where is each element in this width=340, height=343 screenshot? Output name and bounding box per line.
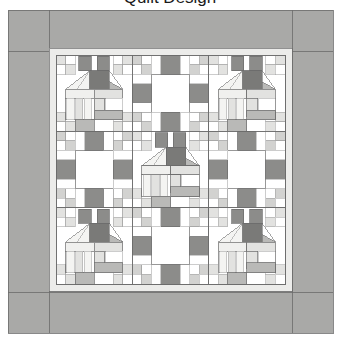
house-corner-unit (275, 65, 285, 75)
filler-link (56, 179, 75, 189)
roof-peak-panel (243, 71, 263, 90)
eave-band-left (66, 242, 95, 251)
house-corner-unit (113, 208, 123, 218)
filler-link (75, 131, 85, 150)
nine-patch-filler-block (132, 55, 208, 131)
filler-four-patch-unit (132, 265, 142, 275)
filler-four-patch-unit (190, 208, 200, 218)
house-corner-unit (66, 274, 76, 284)
house-corner-unit (123, 122, 133, 132)
filler-link (180, 112, 190, 131)
filler-four-patch-unit (132, 65, 142, 75)
house-corner-unit (209, 274, 219, 284)
page-title-text: Quilt Design (0, 0, 340, 8)
right-chimney (250, 56, 262, 70)
filler-four-patch-unit (66, 189, 76, 199)
filler-four-patch-unit (132, 112, 142, 122)
house-corner-unit (218, 217, 228, 227)
window-strip (143, 175, 150, 196)
house-corner-unit (56, 274, 66, 284)
filler-four-patch-unit (142, 217, 152, 227)
right-chimney (173, 133, 185, 147)
house-corner-unit (113, 55, 123, 65)
quilt-field-group (56, 55, 285, 284)
house-corner-unit (209, 217, 219, 227)
nine-patch-filler-block (56, 131, 132, 207)
filler-link (151, 112, 161, 131)
filler-link (113, 150, 132, 160)
house-corner-unit (123, 265, 133, 275)
right-chimney (250, 209, 262, 223)
house-corner-unit (56, 112, 66, 122)
house-corner-unit (209, 65, 219, 75)
house-corner-unit (132, 141, 142, 151)
filler-four-patch-unit (56, 189, 66, 199)
house-corner-unit (113, 122, 123, 132)
filler-four-patch-unit (56, 141, 66, 151)
house-bottom-accent (151, 196, 170, 207)
eave-band-right (94, 242, 123, 251)
house-corner-unit (218, 65, 228, 75)
house-corner-unit (56, 208, 66, 218)
filler-link (151, 265, 161, 284)
foundation-band (94, 263, 123, 273)
filler-four-patch-unit (190, 55, 200, 65)
nine-patch-filler-block (132, 208, 208, 284)
filler-four-patch-unit (199, 265, 209, 275)
filler-link (266, 179, 285, 189)
house-corner-unit (275, 217, 285, 227)
house-corner-unit (209, 265, 219, 275)
house-corner-unit (66, 55, 76, 65)
filler-four-patch-unit (275, 141, 285, 151)
left-chimney (79, 209, 91, 223)
foundation-band (247, 110, 276, 120)
filler-center-square (151, 74, 189, 112)
schoolhouse-block (56, 55, 132, 131)
filler-accent-top (161, 208, 180, 227)
filler-link (256, 189, 266, 208)
filler-four-patch-unit (132, 122, 142, 132)
house-corner-unit (266, 55, 276, 65)
filler-four-patch-unit (275, 189, 285, 199)
eave-band-right (247, 89, 276, 98)
filler-link (75, 189, 85, 208)
window-strip (160, 175, 167, 196)
filler-link (209, 179, 228, 189)
filler-four-patch-unit (142, 65, 152, 75)
right-chimney (97, 56, 109, 70)
house-corner-unit (199, 189, 209, 199)
house-corner-unit (56, 265, 66, 275)
filler-four-patch-unit (142, 112, 152, 122)
house-corner-unit (275, 208, 285, 218)
house-corner-unit (132, 198, 142, 208)
left-chimney (155, 133, 167, 147)
eave-band-right (171, 166, 200, 175)
filler-accent-left (56, 160, 75, 179)
filler-four-patch-unit (142, 265, 152, 275)
house-corner-unit (66, 208, 76, 218)
filler-accent-right (113, 160, 132, 179)
quilt-canvas (0, 0, 340, 343)
filler-four-patch-unit (190, 265, 200, 275)
house-corner-unit (66, 65, 76, 75)
wall-panel (258, 251, 275, 263)
window-strip (84, 98, 91, 119)
filler-link (56, 150, 75, 160)
filler-link (113, 179, 132, 189)
house-corner-unit (123, 55, 133, 65)
filler-accent-left (209, 160, 228, 179)
house-corner-unit (209, 208, 219, 218)
filler-accent-bottom (237, 189, 256, 208)
schoolhouse-block (209, 55, 285, 131)
filler-four-patch-unit (266, 131, 276, 141)
house-corner-unit (275, 55, 285, 65)
house-corner-unit (218, 208, 228, 218)
house-corner-unit (275, 122, 285, 132)
filler-four-patch-unit (199, 274, 209, 284)
filler-link (190, 227, 209, 237)
eave-band-left (218, 89, 247, 98)
filler-link (151, 55, 161, 74)
house-corner-unit (266, 208, 276, 218)
window-strip (76, 98, 83, 119)
filler-link (180, 55, 190, 74)
